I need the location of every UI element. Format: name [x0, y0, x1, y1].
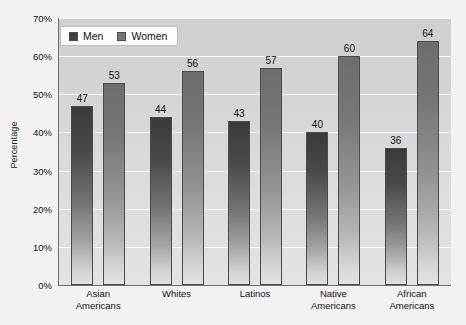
- x-axis-category-label-line: Native: [294, 288, 372, 300]
- y-axis-tick-label: 40%: [8, 127, 52, 138]
- bar-value-label: 40: [312, 119, 323, 130]
- y-axis-tick-label: 20%: [8, 203, 52, 214]
- bar-value-label: 60: [344, 43, 355, 54]
- legend-swatch-icon: [69, 32, 78, 41]
- bar-men-african-americans[interactable]: [385, 148, 407, 285]
- legend-item-women[interactable]: Women: [117, 30, 167, 42]
- bar-value-label: 44: [155, 104, 166, 115]
- bar-women-asian-americans[interactable]: [103, 83, 125, 285]
- bar-men-native-americans[interactable]: [306, 132, 328, 285]
- y-axis-tick-label: 70%: [8, 13, 52, 24]
- bar-value-label: 57: [265, 55, 276, 66]
- x-axis-category-labels: AsianAmericansWhitesLatinosNativeAmerica…: [59, 288, 451, 312]
- bar-wrapper: 53: [103, 18, 125, 285]
- plot-area: 47534456435740603664: [58, 18, 451, 286]
- x-axis-category-label-line: Americans: [294, 300, 372, 312]
- x-axis-category-label-line: Asian: [59, 288, 137, 300]
- bar-group: 4456: [137, 18, 215, 285]
- bar-group: 3664: [373, 18, 451, 285]
- y-axis-tick-label: 0%: [8, 280, 52, 291]
- bar-value-label: 56: [187, 58, 198, 69]
- y-axis-tick-label: 10%: [8, 241, 52, 252]
- legend-item-label: Men: [83, 30, 103, 42]
- x-axis-category-label-line: Whites: [137, 288, 215, 300]
- bar-women-latinos[interactable]: [260, 68, 282, 285]
- bar-value-label: 43: [233, 108, 244, 119]
- bar-value-label: 36: [390, 135, 401, 146]
- y-axis-tick-label: 30%: [8, 165, 52, 176]
- bar-wrapper: 64: [417, 18, 439, 285]
- x-axis-category-label: Whites: [137, 288, 215, 312]
- bar-value-label: 53: [109, 70, 120, 81]
- legend-item-men[interactable]: Men: [69, 30, 103, 42]
- y-axis-tick-labels: 70%60%50%40%30%20%10%0%: [8, 18, 52, 285]
- bar-women-native-americans[interactable]: [338, 56, 360, 285]
- bar-value-label: 64: [422, 28, 433, 39]
- bar-wrapper: 36: [385, 18, 407, 285]
- x-axis-category-label-line: Latinos: [216, 288, 294, 300]
- x-axis-category-label: AsianAmericans: [59, 288, 137, 312]
- bar-wrapper: 57: [260, 18, 282, 285]
- bar-wrapper: 43: [228, 18, 250, 285]
- bar-value-label: 47: [77, 93, 88, 104]
- bar-chart-figure: Percentage 70%60%50%40%30%20%10%0% 47534…: [0, 0, 466, 325]
- bar-wrapper: 47: [71, 18, 93, 285]
- bar-group: 4357: [216, 18, 294, 285]
- legend-item-label: Women: [131, 30, 167, 42]
- chart-legend: MenWomen: [60, 26, 178, 46]
- bar-wrapper: 60: [338, 18, 360, 285]
- bar-group: 4753: [59, 18, 137, 285]
- x-axis-category-label: AfricanAmericans: [373, 288, 451, 312]
- y-axis-tick-label: 50%: [8, 89, 52, 100]
- x-axis-category-label-line: Americans: [59, 300, 137, 312]
- bar-group: 4060: [294, 18, 372, 285]
- x-axis-category-label-line: African: [373, 288, 451, 300]
- legend-swatch-icon: [117, 32, 126, 41]
- y-axis-tick-label: 60%: [8, 51, 52, 62]
- bar-men-asian-americans[interactable]: [71, 106, 93, 285]
- bar-wrapper: 44: [150, 18, 172, 285]
- bar-men-latinos[interactable]: [228, 121, 250, 285]
- bars-layer: 47534456435740603664: [59, 18, 451, 285]
- bar-men-whites[interactable]: [150, 117, 172, 285]
- bar-wrapper: 40: [306, 18, 328, 285]
- x-axis-category-label: Latinos: [216, 288, 294, 312]
- bar-wrapper: 56: [182, 18, 204, 285]
- x-axis-category-label-line: Americans: [373, 300, 451, 312]
- bar-women-whites[interactable]: [182, 71, 204, 285]
- bar-women-african-americans[interactable]: [417, 41, 439, 285]
- x-axis-category-label: NativeAmericans: [294, 288, 372, 312]
